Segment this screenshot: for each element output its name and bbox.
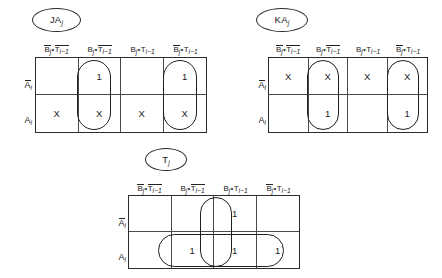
- kmap-ka-cell-r0c0[interactable]: X: [269, 58, 309, 95]
- kmap-t-column-headers: Bj•Ti−1 Bj•Ti−1 Bj•Ti−1 Bj•Ti−1: [128, 175, 300, 193]
- kmap-t-title-bubble: Tj: [145, 148, 187, 171]
- kmap-ja-title-bubble: JAj: [32, 8, 81, 32]
- kmap-t-title-sub: j: [168, 159, 170, 166]
- kmap-ka-col-header-4: Bj•Ti−1: [388, 36, 428, 54]
- kmap-ka-col-header-1: Bj•Ti−1: [268, 36, 308, 54]
- kmap-ka-cell-r1c2[interactable]: [348, 95, 388, 132]
- kmap-ja-cell-r1c1[interactable]: X: [79, 95, 122, 132]
- kmap-t-col-header-1: Bj•Ti−1: [128, 175, 171, 193]
- kmap-t-cell-r0c3[interactable]: [257, 196, 300, 232]
- kmap-ja-title-sub: j: [61, 19, 63, 26]
- kmap-t-row-label-2: Ai: [102, 253, 126, 262]
- kmap-t-cell-r1c0[interactable]: [129, 232, 172, 268]
- kmap-ka-title-text: KAj: [275, 15, 290, 25]
- kmap-ka-col-header-2: Bj•Ti−1: [308, 36, 348, 54]
- kmap-ja-row-label-2: Ai: [8, 116, 32, 125]
- kmap-ja: JAj Bj•Ti−1 Bj•Ti−1 Bj•Ti−1 Bj•Ti−1 Ai A…: [0, 0, 230, 145]
- kmap-ka-cell-r1c1[interactable]: 1: [309, 95, 349, 132]
- kmap-ka: KAj Bj•Ti−1 Bj•Ti−1 Bj•Ti−1 Bj•Ti−1 Ai A…: [232, 0, 442, 145]
- kmap-ja-column-headers: Bj•Ti−1 Bj•Ti−1 Bj•Ti−1 Bj•Ti−1: [35, 36, 207, 54]
- kmap-t-grid: 1 1 1 1: [128, 195, 300, 269]
- kmap-t-cell-r1c3[interactable]: 1: [257, 232, 300, 268]
- kmap-t-cell-r0c0[interactable]: [129, 196, 172, 232]
- kmap-t: Tj Bj•Ti−1 Bj•Ti−1 Bj•Ti−1 Bj•Ti−1 Ai Ai…: [92, 145, 317, 278]
- kmap-t-cell-r1c2[interactable]: 1: [214, 232, 257, 268]
- kmap-ja-title-text: JAj: [50, 15, 63, 25]
- kmap-t-cell-r0c2[interactable]: 1: [214, 196, 257, 232]
- kmap-t-col-header-3: Bj•Ti−1: [214, 175, 257, 193]
- kmap-t-row-label-1: Ai: [102, 218, 126, 229]
- kmap-ka-grid: X X X X 1 1: [268, 57, 428, 133]
- kmap-ka-cell-r1c0[interactable]: [269, 95, 309, 132]
- kmap-ka-row-label-2: Ai: [242, 116, 266, 125]
- kmap-ka-col-header-3: Bj•Ti−1: [348, 36, 388, 54]
- kmap-ka-cell-r0c2[interactable]: X: [348, 58, 388, 95]
- kmap-ja-grid: 1 1 X X X X: [35, 57, 207, 133]
- kmap-t-col-header-4: Bj•Ti−1: [257, 175, 300, 193]
- kmap-ja-cell-r1c3[interactable]: X: [164, 95, 207, 132]
- kmap-ja-col-header-4: Bj•Ti−1: [164, 36, 207, 54]
- kmap-ka-cell-r0c3[interactable]: X: [388, 58, 428, 95]
- kmap-t-col-header-2: Bj•Ti−1: [171, 175, 214, 193]
- kmap-t-cell-r1c1[interactable]: 1: [172, 232, 215, 268]
- kmap-ja-col-header-1: Bj•Ti−1: [35, 36, 78, 54]
- kmap-t-title-text: Tj: [162, 155, 170, 165]
- kmap-ka-row-label-1: Ai: [242, 80, 266, 91]
- kmap-ja-cell-r0c3[interactable]: 1: [164, 58, 207, 95]
- kmap-ka-column-headers: Bj•Ti−1 Bj•Ti−1 Bj•Ti−1 Bj•Ti−1: [268, 36, 428, 54]
- kmap-ka-title-a: A: [281, 14, 288, 25]
- kmap-ja-cell-r0c0[interactable]: [36, 58, 79, 95]
- kmap-ja-col-header-3: Bj•Ti−1: [121, 36, 164, 54]
- kmap-ka-cell-r0c1[interactable]: X: [309, 58, 349, 95]
- kmap-ka-title-sub: j: [288, 19, 290, 26]
- kmap-t-cell-r0c1[interactable]: [172, 196, 215, 232]
- kmap-ja-col-header-2: Bj•Ti−1: [78, 36, 121, 54]
- kmap-ja-cell-r0c1[interactable]: 1: [79, 58, 122, 95]
- kmap-ja-cell-r1c0[interactable]: X: [36, 95, 79, 132]
- kmap-ka-title-bubble: KAj: [256, 8, 308, 32]
- kmap-ja-cell-r0c2[interactable]: [121, 58, 164, 95]
- kmap-ka-cell-r1c3[interactable]: 1: [388, 95, 428, 132]
- kmap-ja-row-label-1: Ai: [8, 80, 32, 91]
- kmap-ja-cell-r1c2[interactable]: X: [121, 95, 164, 132]
